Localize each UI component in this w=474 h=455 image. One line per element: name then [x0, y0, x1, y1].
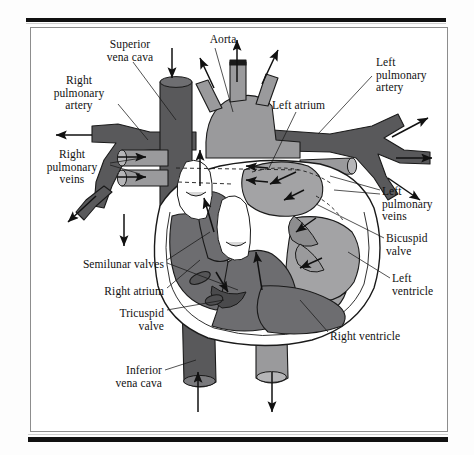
rpv-upper-opening	[117, 150, 126, 166]
label-left-pulmonary-veins: Left pulmonary veins	[382, 185, 458, 223]
label-superior-vena-cava: Superior vena cava	[84, 38, 176, 63]
right-pulmonary-vein-lower	[122, 170, 168, 186]
right-pulmonary-vein-upper	[122, 150, 168, 166]
label-right-pulmonary-veins: Right pulmonary veins	[30, 148, 114, 186]
label-left-pulmonary-artery: Left pulmonary artery	[376, 56, 454, 94]
figure-page: Superior vena cavaAortaLeft pulmonary ar…	[0, 0, 474, 455]
aortic-semilunar-valve	[217, 196, 251, 260]
label-left-ventricle: Left ventricle	[392, 272, 464, 297]
label-tricuspid-valve: Tricuspid valve	[72, 307, 164, 332]
lpv-upper-opening	[347, 158, 356, 174]
svc-opening	[160, 77, 192, 88]
carotid-cap	[230, 60, 246, 65]
label-right-pulmonary-artery: Right pulmonary artery	[36, 74, 122, 112]
label-right-ventricle: Right ventricle	[330, 330, 434, 343]
left-common-carotid	[230, 62, 246, 102]
label-bicuspid-valve: Bicuspid valve	[386, 232, 462, 257]
label-right-atrium: Right atrium	[72, 285, 164, 298]
right-pulmonary-artery-branch	[76, 186, 112, 220]
label-semilunar-valves: Semilunar valves	[54, 258, 164, 271]
rpv-lower-opening	[117, 170, 126, 186]
ivc-opening	[184, 375, 216, 386]
label-inferior-vena-cava: Inferior vena cava	[70, 364, 162, 389]
label-left-atrium: Left atrium	[272, 99, 352, 112]
brachiocephalic-branch	[196, 80, 222, 112]
label-aorta: Aorta	[192, 33, 254, 46]
